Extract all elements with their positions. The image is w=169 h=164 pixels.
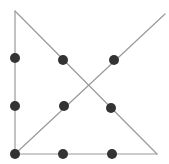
connecting-lines [15,11,165,154]
dot-3 [109,55,119,65]
dot-5 [59,101,69,111]
dot-4 [10,101,20,111]
dot-2 [58,55,68,65]
nine-dots-diagram [0,0,169,164]
line-segment-3 [15,11,157,154]
line-segment-1 [15,14,165,154]
dot-6 [106,103,116,113]
dot-7 [10,149,20,159]
dot-8 [58,149,68,159]
dot-1 [10,53,20,63]
dot-9 [107,149,117,159]
